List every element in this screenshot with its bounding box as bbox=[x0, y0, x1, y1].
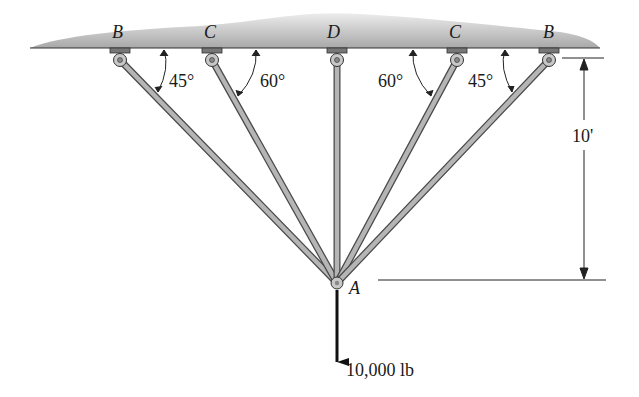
angle-label-60-left: 60° bbox=[260, 71, 285, 91]
member-ab-right bbox=[337, 60, 549, 283]
angle-label-45-left: 45° bbox=[169, 71, 194, 91]
angle-label-60-right: 60° bbox=[378, 71, 403, 91]
pin-icon bbox=[202, 48, 222, 67]
truss-diagram: B C D C B 45° 60° 60° 45° A 10' 10,000 l… bbox=[0, 0, 639, 397]
support-pins bbox=[110, 48, 559, 67]
support-label-c-right: C bbox=[449, 22, 462, 42]
angle-arc-icon bbox=[238, 50, 256, 96]
dimension-10ft bbox=[378, 58, 606, 280]
dimension-arrow-icon bbox=[580, 59, 588, 70]
pin-icon bbox=[447, 48, 467, 67]
load-label: 10,000 lb bbox=[346, 360, 414, 380]
support-label-b-right: B bbox=[543, 22, 554, 42]
support-label-b-left: B bbox=[112, 22, 123, 42]
angle-label-45-right: 45° bbox=[468, 71, 493, 91]
members bbox=[120, 60, 549, 283]
support-label-c-left: C bbox=[204, 22, 217, 42]
dimension-label: 10' bbox=[572, 126, 593, 146]
joint-a bbox=[331, 277, 343, 289]
angle-arc-icon bbox=[503, 50, 512, 92]
pin-icon bbox=[327, 48, 347, 67]
joint-label-a: A bbox=[348, 278, 361, 298]
angle-arc-icon bbox=[413, 50, 431, 96]
support-label-d: D bbox=[326, 22, 340, 42]
angle-arc-icon bbox=[158, 50, 166, 92]
dimension-arrow-icon bbox=[580, 268, 588, 279]
